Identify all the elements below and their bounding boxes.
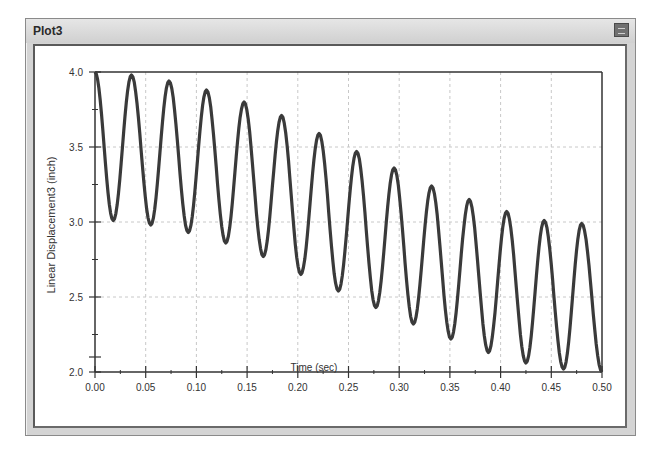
svg-text:0.45: 0.45: [542, 382, 562, 393]
svg-text:0.10: 0.10: [187, 382, 207, 393]
svg-text:0.30: 0.30: [389, 382, 409, 393]
svg-text:0.40: 0.40: [491, 382, 511, 393]
svg-text:3.5: 3.5: [69, 142, 83, 153]
window-title: Plot3: [33, 24, 62, 38]
svg-text:3.0: 3.0: [69, 217, 83, 228]
y-axis-label: Linear Displacement3 (inch): [45, 157, 57, 294]
y-axis-ticks: 2.02.53.03.54.0: [69, 67, 101, 378]
svg-text:0.00: 0.00: [85, 382, 105, 393]
svg-text:2.5: 2.5: [69, 292, 83, 303]
svg-text:0.15: 0.15: [237, 382, 257, 393]
svg-text:4.0: 4.0: [69, 67, 83, 78]
x-axis-label: Time (sec): [291, 362, 338, 373]
line-chart: 2.02.53.03.54.0 0.000.050.100.150.200.25…: [35, 46, 625, 426]
title-bar[interactable]: Plot3: [26, 19, 635, 43]
svg-text:0.05: 0.05: [136, 382, 156, 393]
plot-window: Plot3 2.02.53.03.54.0 0.000.050.100.150.…: [25, 18, 636, 436]
svg-text:0.50: 0.50: [592, 382, 612, 393]
plot-panel: 2.02.53.03.54.0 0.000.050.100.150.200.25…: [33, 44, 627, 428]
svg-text:0.20: 0.20: [288, 382, 308, 393]
svg-text:0.25: 0.25: [339, 382, 359, 393]
x-axis-ticks: 0.000.050.100.150.200.250.300.350.400.45…: [85, 366, 612, 393]
svg-text:2.0: 2.0: [69, 367, 83, 378]
close-icon[interactable]: [614, 23, 629, 37]
svg-text:0.35: 0.35: [440, 382, 460, 393]
